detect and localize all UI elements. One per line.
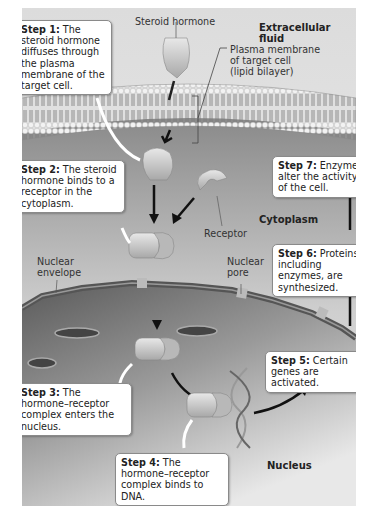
region-cytoplasm: Cytoplasm <box>259 214 318 225</box>
label-plasma-membrane: Plasma membrane of target cell (lipid bi… <box>230 44 320 77</box>
diagram-scene: Extracellular fluid Cytoplasm Nucleus St… <box>22 8 356 506</box>
step-5-title: Step 5: <box>271 355 310 366</box>
step-5-callout: Step 5: Certain genes are activated. <box>265 351 356 393</box>
label-plasma-membrane-line2: of target cell <box>230 55 320 66</box>
step-3-callout: Step 3: The hormone–receptor complex ent… <box>22 383 132 436</box>
label-steroid-hormone: Steroid hormone <box>135 16 215 27</box>
step-7-title: Step 7: <box>278 160 317 171</box>
step-2-callout: Step 2: The steroid hormone binds to a r… <box>22 160 125 213</box>
label-nuclear-envelope-line1: Nuclear <box>37 256 81 267</box>
label-receptor: Receptor <box>204 228 247 239</box>
step-1-title: Step 1: <box>22 24 60 35</box>
step-7-callout: Step 7: Enzymes alter the activity of th… <box>272 156 356 198</box>
step-2-title: Step 2: <box>22 164 60 175</box>
region-nucleus: Nucleus <box>267 460 312 471</box>
label-nuclear-pore-line2: pore <box>227 267 264 278</box>
step-4-title: Step 4: <box>121 457 160 468</box>
label-plasma-membrane-line1: Plasma membrane <box>230 44 320 55</box>
step-1-callout: Step 1: The steroid hormone diffuses thr… <box>22 20 112 95</box>
step-3-title: Step 3: <box>22 387 60 398</box>
step-4-callout: Step 4: The hormone–receptor complex bin… <box>115 453 229 506</box>
steroid-hormone-diagram: Extracellular fluid Cytoplasm Nucleus St… <box>0 0 381 515</box>
label-nuclear-pore: Nuclear pore <box>227 256 264 278</box>
label-plasma-membrane-line3: (lipid bilayer) <box>230 66 320 77</box>
label-nuclear-pore-line1: Nuclear <box>227 256 264 267</box>
label-nuclear-envelope: Nuclear envelope <box>37 256 81 278</box>
label-nuclear-envelope-line2: envelope <box>37 267 81 278</box>
step-6-callout: Step 6: Proteins, including enzymes, are… <box>272 244 356 297</box>
region-extracellular-fluid: Extracellular fluid <box>259 22 356 44</box>
step-6-title: Step 6: <box>278 248 317 259</box>
